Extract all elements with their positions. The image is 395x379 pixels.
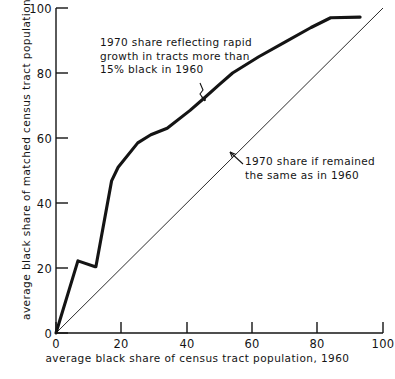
x-tick-label-20: 20 <box>101 337 141 351</box>
curve-annotation-arrow <box>200 83 206 101</box>
x-tick-label-40: 40 <box>167 337 207 351</box>
annotation-diagonal-label: 1970 share if remained the same as in 19… <box>245 155 375 182</box>
x-tick-label-60: 60 <box>232 337 272 351</box>
x-tick-label-80: 80 <box>297 337 337 351</box>
y-axis-ticks <box>56 8 68 333</box>
x-axis-ticks <box>56 322 383 333</box>
chart-figure: 100 80 60 40 20 0 0 20 40 60 80 100 aver… <box>0 0 395 379</box>
annotation-curve-label: 1970 share reflecting rapid growth in tr… <box>100 36 252 77</box>
x-tick-label-100: 100 <box>363 337 395 351</box>
y-axis-title: average black share of matched census tr… <box>20 20 33 320</box>
x-axis-title-text: average black share of census tract popu… <box>45 352 349 364</box>
x-axis-title: average black share of census tract popu… <box>0 352 395 365</box>
x-tick-label-0: 0 <box>36 337 76 351</box>
y-axis-title-text: average black share of matched census tr… <box>20 0 32 320</box>
